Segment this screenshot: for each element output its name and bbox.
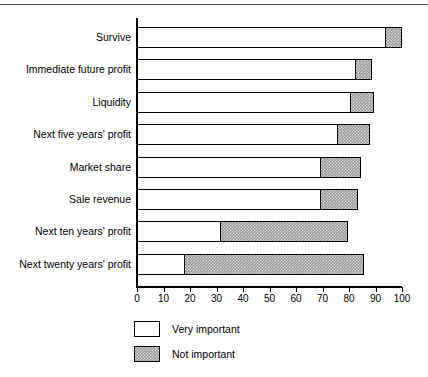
x-tick-mark — [164, 287, 165, 292]
x-tick-mark — [402, 287, 403, 292]
bar-segment-not-important — [385, 27, 403, 48]
category-label: Survive — [1, 27, 131, 48]
x-tick-label: 50 — [255, 293, 285, 305]
bar-segment-very-important — [137, 124, 338, 145]
bar-segment-not-important — [337, 124, 370, 145]
bar-segment-not-important — [320, 189, 359, 210]
x-tick-mark — [296, 287, 297, 292]
legend-swatch — [134, 346, 160, 362]
bar-segment-very-important — [137, 254, 186, 275]
category-axis-labels: SurviveImmediate future profitLiquidityN… — [0, 18, 131, 287]
bar-segment-very-important — [137, 221, 222, 242]
x-tick-mark — [323, 287, 324, 292]
x-tick-label: 0 — [122, 293, 152, 305]
x-tick-mark — [190, 287, 191, 292]
x-tick-label: 60 — [281, 293, 311, 305]
plot-area — [137, 18, 402, 287]
legend-item: Not important — [134, 343, 334, 364]
bar-segment-not-important — [220, 221, 347, 242]
bar-segment-not-important — [320, 157, 361, 178]
category-label: Next ten years' profit — [1, 221, 131, 242]
bar-segment-not-important — [355, 59, 371, 80]
legend-item: Very important — [134, 318, 334, 339]
bar-segment-very-important — [137, 157, 321, 178]
x-tick-mark — [243, 287, 244, 292]
category-label: Liquidity — [1, 92, 131, 113]
bar-segment-very-important — [137, 189, 321, 210]
x-tick-label: 30 — [202, 293, 232, 305]
x-tick-label: 90 — [361, 293, 391, 305]
category-label: Market share — [1, 157, 131, 178]
category-label: Sale revenue — [1, 189, 131, 210]
x-tick-mark — [376, 287, 377, 292]
bar-segment-very-important — [137, 27, 386, 48]
bar-segment-very-important — [137, 92, 352, 113]
category-label: Next twenty years' profit — [1, 254, 131, 275]
x-tick-label: 80 — [334, 293, 364, 305]
chart-legend: Very importantNot important — [134, 318, 334, 368]
legend-label: Not important — [172, 348, 235, 360]
x-tick-label: 70 — [308, 293, 338, 305]
x-tick-label: 40 — [228, 293, 258, 305]
x-tick-mark — [270, 287, 271, 292]
x-tick-label: 100 — [387, 293, 417, 305]
x-tick-mark — [349, 287, 350, 292]
stacked-bar-chart: SurviveImmediate future profitLiquidityN… — [0, 0, 428, 377]
x-tick-mark — [217, 287, 218, 292]
x-tick-label: 20 — [175, 293, 205, 305]
category-label: Next five years' profit — [1, 124, 131, 145]
x-tick-label: 10 — [149, 293, 179, 305]
bar-segment-not-important — [350, 92, 374, 113]
legend-swatch — [134, 321, 160, 337]
bar-segment-very-important — [137, 59, 357, 80]
bar-segment-not-important — [184, 254, 363, 275]
category-label: Immediate future profit — [1, 59, 131, 80]
x-tick-mark — [137, 287, 138, 292]
legend-label: Very important — [172, 323, 240, 335]
